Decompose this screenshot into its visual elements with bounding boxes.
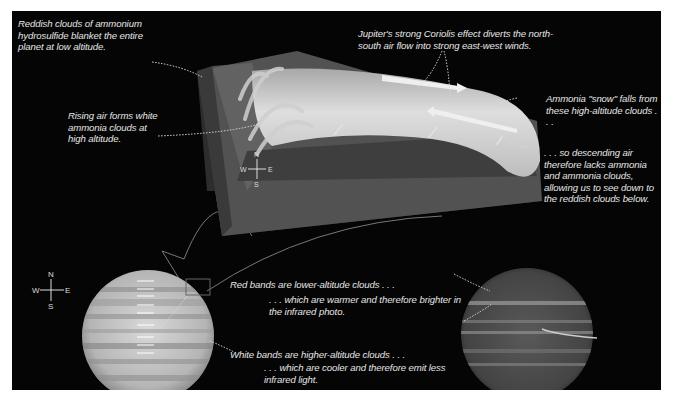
svg-text:E: E	[268, 166, 273, 173]
svg-text:N: N	[48, 270, 54, 279]
annotation-warmer: . . . which are warmer and therefore bri…	[269, 294, 469, 317]
svg-text:W: W	[32, 286, 40, 295]
annotation-white-bands: White bands are higher-altitude clouds .…	[230, 349, 450, 361]
svg-text:W: W	[240, 166, 247, 173]
figure-frame: NS WE	[12, 11, 661, 390]
planet-compass: NS WE	[32, 270, 70, 311]
annotation-red-bands: Red bands are lower-altitude clouds . . …	[230, 279, 450, 291]
annotation-cooler: . . . which are cooler and therefore emi…	[264, 362, 474, 385]
svg-text:S: S	[254, 181, 259, 188]
infrared-planet	[452, 268, 612, 390]
svg-text:E: E	[65, 286, 70, 295]
annotation-coriolis: Jupiter's strong Coriolis effect diverts…	[358, 28, 573, 51]
svg-text:N: N	[254, 151, 259, 158]
visible-planet	[72, 270, 232, 390]
annotation-rising-air: Rising air forms white ammonia clouds at…	[68, 110, 163, 145]
svg-text:S: S	[48, 302, 53, 311]
annotation-ammonia-snow: Ammonia "snow" falls from these high-alt…	[546, 93, 661, 128]
annotation-descending-air: . . . so descending air therefore lacks …	[544, 147, 656, 205]
atmosphere-block	[197, 51, 542, 236]
annotation-reddish-clouds: Reddish clouds of ammonium hydrosulfide …	[18, 18, 168, 53]
